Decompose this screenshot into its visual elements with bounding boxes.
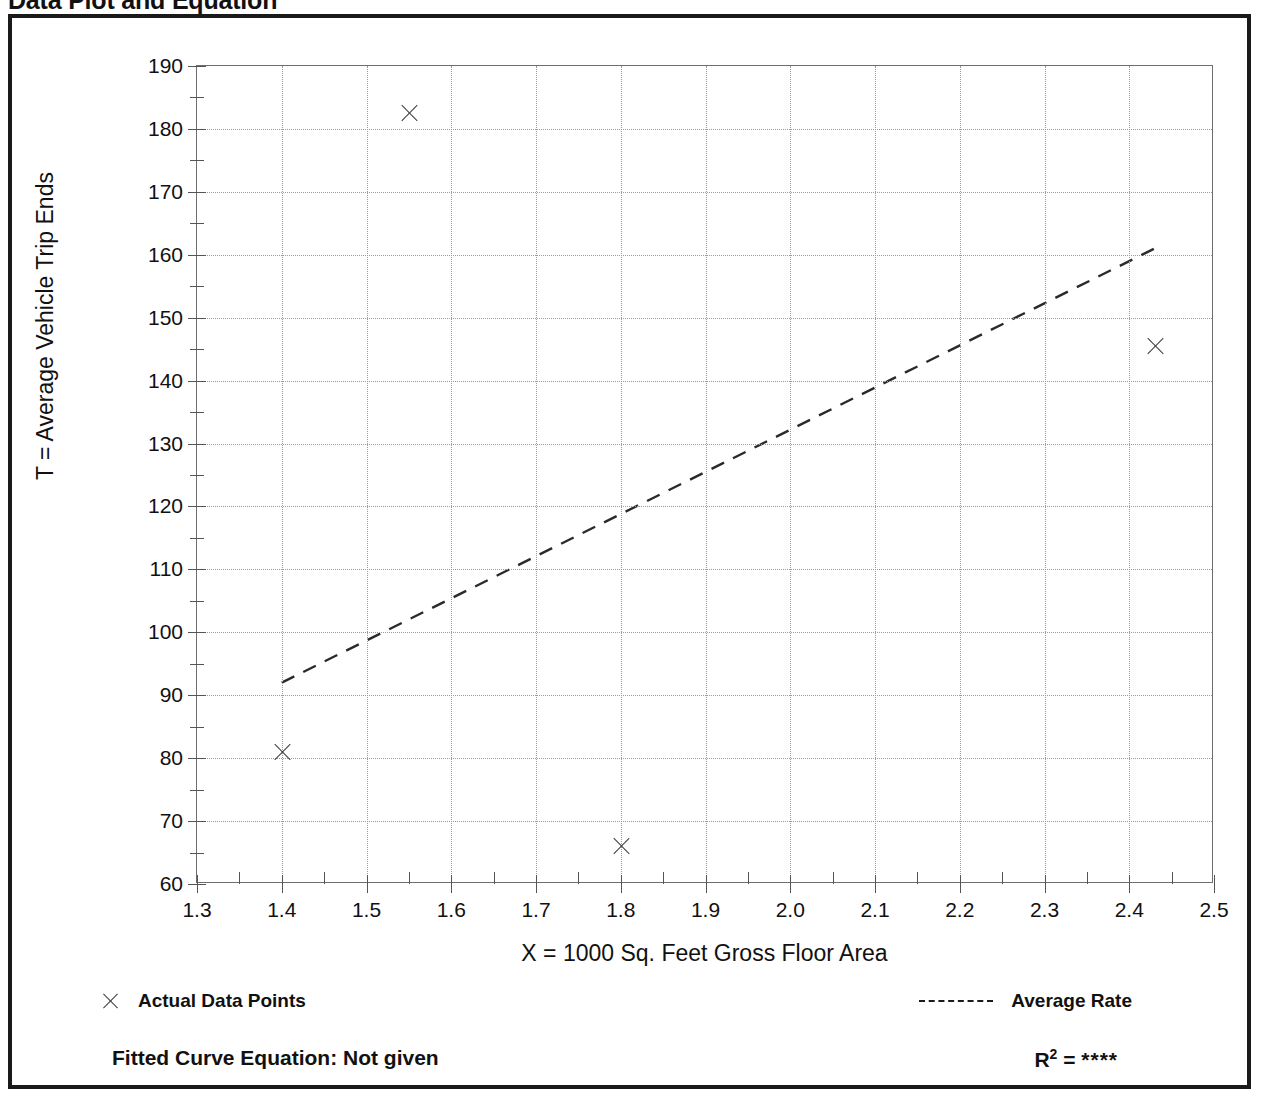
gridline-vertical <box>621 66 622 882</box>
gridline-horizontal <box>197 758 1212 759</box>
x-axis-tick-label: 2.4 <box>1115 898 1144 922</box>
dashed-line-icon <box>919 1000 993 1002</box>
gridline-horizontal <box>197 821 1212 822</box>
y-axis-minor-tick <box>190 349 204 350</box>
x-axis-tick-label: 1.7 <box>521 898 550 922</box>
gridline-vertical <box>536 66 537 882</box>
x-axis-title: X = 1000 Sq. Feet Gross Floor Area <box>196 940 1213 967</box>
gridline-horizontal <box>197 129 1212 130</box>
x-axis-tick <box>536 875 537 893</box>
y-axis-tick-label: 110 <box>150 557 183 581</box>
x-axis-tick-label: 1.6 <box>437 898 466 922</box>
y-axis-tick <box>188 758 206 759</box>
x-axis-tick <box>790 875 791 893</box>
x-axis-minor-tick <box>917 872 918 884</box>
x-axis-tick <box>1045 875 1046 893</box>
x-axis-tick <box>875 875 876 893</box>
gridline-horizontal <box>197 381 1212 382</box>
y-axis-tick-label: 170 <box>148 180 183 204</box>
y-axis-minor-tick <box>190 664 204 665</box>
data-point-marker <box>610 835 632 857</box>
y-axis-tick <box>188 821 206 822</box>
gridline-vertical <box>790 66 791 882</box>
gridline-vertical <box>367 66 368 882</box>
x-axis-minor-tick <box>1087 872 1088 884</box>
gridline-vertical <box>1129 66 1130 882</box>
y-axis-tick-label: 100 <box>148 620 183 644</box>
y-axis-tick <box>188 569 206 570</box>
plot-area: 190180170160150140130120110100908070601.… <box>196 65 1213 883</box>
x-axis-tick <box>706 875 707 893</box>
y-axis-tick-label: 60 <box>160 872 183 896</box>
x-axis-minor-tick <box>324 872 325 884</box>
y-axis-tick-label: 140 <box>148 369 183 393</box>
r-squared-value: R2 = **** <box>1034 1046 1118 1072</box>
x-axis-tick <box>621 875 622 893</box>
y-axis-tick-label: 70 <box>160 809 183 833</box>
data-point-marker <box>271 741 293 763</box>
data-point-marker <box>398 102 420 124</box>
average-rate-line <box>197 66 1212 882</box>
x-axis-minor-tick <box>663 872 664 884</box>
y-axis-tick <box>188 129 206 130</box>
gridline-horizontal <box>197 318 1212 319</box>
y-axis-tick <box>188 192 206 193</box>
y-axis-tick <box>188 444 206 445</box>
r-squared-stars: **** <box>1081 1048 1118 1071</box>
data-point-marker <box>1144 335 1166 357</box>
chart-canvas: T = Average Vehicle Trip Ends 1901801701… <box>0 0 1274 1097</box>
chart-legend: Actual Data Points Average Rate <box>100 990 1190 1022</box>
x-axis-tick <box>197 875 198 893</box>
y-axis-tick-label: 190 <box>148 54 183 78</box>
x-axis-minor-tick <box>409 872 410 884</box>
y-axis-tick-label: 130 <box>148 432 183 456</box>
y-axis-minor-tick <box>190 160 204 161</box>
x-axis-tick-label: 2.5 <box>1199 898 1228 922</box>
x-axis-tick <box>451 875 452 893</box>
x-axis-tick <box>1214 875 1215 893</box>
x-axis-tick-label: 2.2 <box>945 898 974 922</box>
gridline-horizontal <box>197 444 1212 445</box>
y-axis-minor-tick <box>190 286 204 287</box>
x-axis-tick <box>282 875 283 893</box>
r-squared-equals: = <box>1057 1048 1081 1071</box>
x-axis-minor-tick <box>239 872 240 884</box>
gridline-horizontal <box>197 192 1212 193</box>
y-axis-title: T = Average Vehicle Trip Ends <box>32 172 59 480</box>
y-axis-tick-label: 80 <box>160 746 183 770</box>
y-axis-tick-label: 90 <box>160 683 183 707</box>
x-axis-minor-tick <box>578 872 579 884</box>
y-axis-minor-tick <box>190 790 204 791</box>
x-axis-tick-label: 1.9 <box>691 898 720 922</box>
y-axis-tick <box>188 506 206 507</box>
x-axis-tick-label: 2.1 <box>860 898 889 922</box>
y-axis-minor-tick <box>190 727 204 728</box>
y-axis-minor-tick <box>190 475 204 476</box>
y-axis-tick-label: 180 <box>148 117 183 141</box>
x-axis-tick-label: 1.4 <box>267 898 296 922</box>
y-axis-minor-tick <box>190 97 204 98</box>
fitted-curve-equation: Fitted Curve Equation: Not given <box>112 1046 439 1070</box>
x-axis-tick-label: 1.5 <box>352 898 381 922</box>
legend-item-average-rate: Average Rate <box>919 990 1132 1012</box>
y-axis-tick <box>188 66 206 67</box>
gridline-horizontal <box>197 569 1212 570</box>
legend-label-data-points: Actual Data Points <box>138 990 306 1012</box>
x-axis-minor-tick <box>748 872 749 884</box>
r-squared-letter: R <box>1034 1048 1049 1071</box>
x-axis-minor-tick <box>1002 872 1003 884</box>
chart-footer: Fitted Curve Equation: Not given R2 = **… <box>100 1046 1190 1086</box>
legend-item-data-points: Actual Data Points <box>100 990 306 1012</box>
y-axis-tick-label: 120 <box>148 494 183 518</box>
x-axis-minor-tick <box>1172 872 1173 884</box>
y-axis-minor-tick <box>190 538 204 539</box>
x-axis-tick <box>367 875 368 893</box>
y-axis-tick <box>188 381 206 382</box>
y-axis-tick <box>188 255 206 256</box>
gridline-vertical <box>960 66 961 882</box>
gridline-vertical <box>875 66 876 882</box>
gridline-horizontal <box>197 506 1212 507</box>
x-axis-tick-label: 2.3 <box>1030 898 1059 922</box>
x-axis-tick-label: 2.0 <box>776 898 805 922</box>
y-axis-tick <box>188 695 206 696</box>
